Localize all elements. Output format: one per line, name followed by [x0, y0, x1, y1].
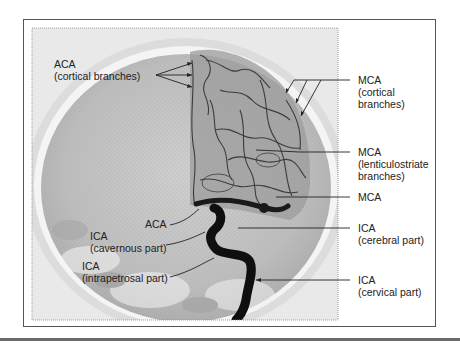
label-line: ACA — [54, 58, 140, 70]
label-ica-cerebral-part: ICA (cerebral part) — [358, 222, 424, 246]
label-line: (cerebral part) — [358, 234, 424, 246]
label-line: MCA — [358, 146, 429, 158]
label-ica-cervical-part: ICA (cervical part) — [358, 274, 422, 298]
label-line: ICA — [82, 260, 168, 272]
label-line: (lenticulostriate — [358, 158, 429, 170]
label-line: ICA — [358, 274, 422, 286]
label-line: MCA — [358, 74, 405, 86]
label-line: ACA — [145, 218, 167, 230]
label-mca: MCA — [358, 191, 381, 203]
label-line: ICA — [358, 222, 424, 234]
label-ica-intrapetrosal-part: ICA (intrapetrosal part) — [82, 260, 168, 284]
label-line: (cervical part) — [358, 286, 422, 298]
label-line: branches) — [358, 98, 405, 110]
label-line: ICA — [90, 230, 166, 242]
label-line: branches) — [358, 170, 429, 182]
page-bottom-rule — [0, 338, 460, 341]
label-line: MCA — [358, 191, 381, 203]
label-mca-lenticulostriate-branches: MCA (lenticulostriate branches) — [358, 146, 429, 182]
label-line: (cortical — [358, 86, 405, 98]
label-aca-cortical-branches: ACA (cortical branches) — [54, 58, 140, 82]
label-mca-cortical-branches: MCA (cortical branches) — [358, 74, 405, 110]
label-aca: ACA — [145, 218, 167, 230]
label-line: (cavernous part) — [90, 242, 166, 254]
label-ica-cavernous-part: ICA (cavernous part) — [90, 230, 166, 254]
label-line: (intrapetrosal part) — [82, 272, 168, 284]
label-line: (cortical branches) — [54, 70, 140, 82]
